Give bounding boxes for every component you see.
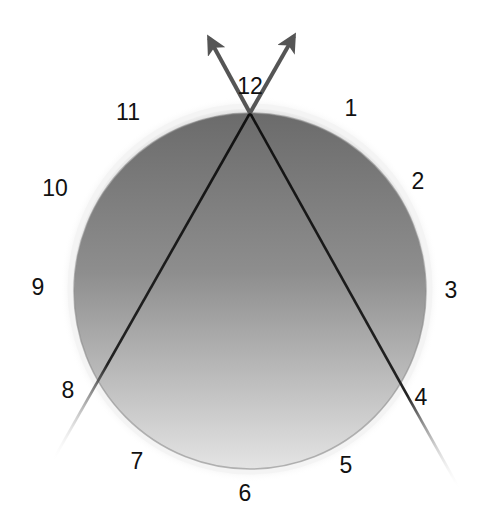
hour-label-11: 11 [116, 101, 140, 124]
hour-label-2: 2 [412, 170, 425, 193]
hour-label-9: 9 [32, 276, 45, 299]
hour-label-6: 6 [239, 482, 252, 505]
hour-label-10: 10 [42, 177, 68, 200]
hour-label-7: 7 [131, 450, 144, 473]
clock-face [74, 113, 426, 469]
hour-label-8: 8 [62, 379, 75, 402]
hour-label-3: 3 [445, 279, 458, 302]
clock-diagram: 12 1 2 3 4 5 6 7 8 9 10 11 [0, 0, 489, 526]
hour-label-12: 12 [237, 75, 263, 98]
hour-label-1: 1 [345, 97, 358, 120]
hour-label-4: 4 [415, 386, 428, 409]
hour-label-5: 5 [340, 454, 353, 477]
